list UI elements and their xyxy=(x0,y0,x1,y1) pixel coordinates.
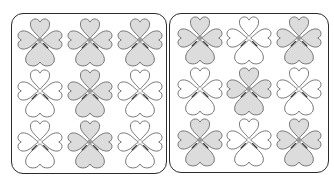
shaded-flower-icon xyxy=(67,120,113,172)
flower-grids-figure xyxy=(0,0,334,186)
unshaded-flower-icon xyxy=(276,67,322,119)
unshaded-flower-icon xyxy=(117,69,163,121)
shaded-flower-icon xyxy=(67,18,113,70)
unshaded-flower-icon xyxy=(17,69,63,121)
shaded-flower-icon xyxy=(276,16,322,68)
shaded-flower-icon xyxy=(17,18,63,70)
shaded-flower-icon xyxy=(117,18,163,70)
unshaded-flower-icon xyxy=(226,16,272,68)
shaded-flower-icon xyxy=(67,69,113,121)
shaded-flower-icon xyxy=(276,118,322,170)
unshaded-flower-icon xyxy=(117,120,163,172)
shaded-flower-icon xyxy=(177,16,223,68)
unshaded-flower-icon xyxy=(226,118,272,170)
shaded-flower-icon xyxy=(177,118,223,170)
unshaded-flower-icon xyxy=(17,120,63,172)
unshaded-flower-icon xyxy=(177,67,223,119)
shaded-flower-icon xyxy=(226,67,272,119)
